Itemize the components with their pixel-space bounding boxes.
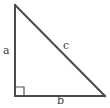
right-triangle-figure: a b c — [0, 0, 110, 108]
triangle-drawing — [0, 0, 110, 108]
label-side-a: a — [3, 45, 10, 56]
hypotenuse-line — [15, 5, 105, 96]
right-angle-marker-icon — [15, 87, 24, 96]
triangle-outline — [15, 5, 105, 96]
label-side-b: b — [57, 95, 64, 106]
label-side-c: c — [63, 40, 69, 51]
